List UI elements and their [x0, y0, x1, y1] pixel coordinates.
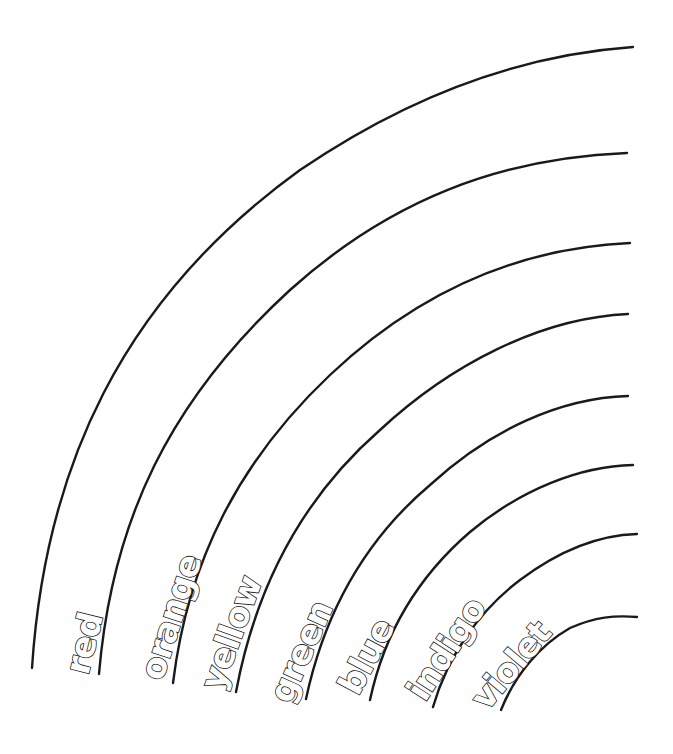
band-label-green: green [261, 595, 341, 709]
band-label-yellow: yellow [192, 570, 270, 694]
arc-boundary-1 [32, 47, 633, 668]
band-label-red: red [57, 609, 111, 678]
rainbow-drawing: red orange yellow green blue indigo viol… [0, 0, 673, 754]
band-label-blue: blue [330, 612, 403, 701]
